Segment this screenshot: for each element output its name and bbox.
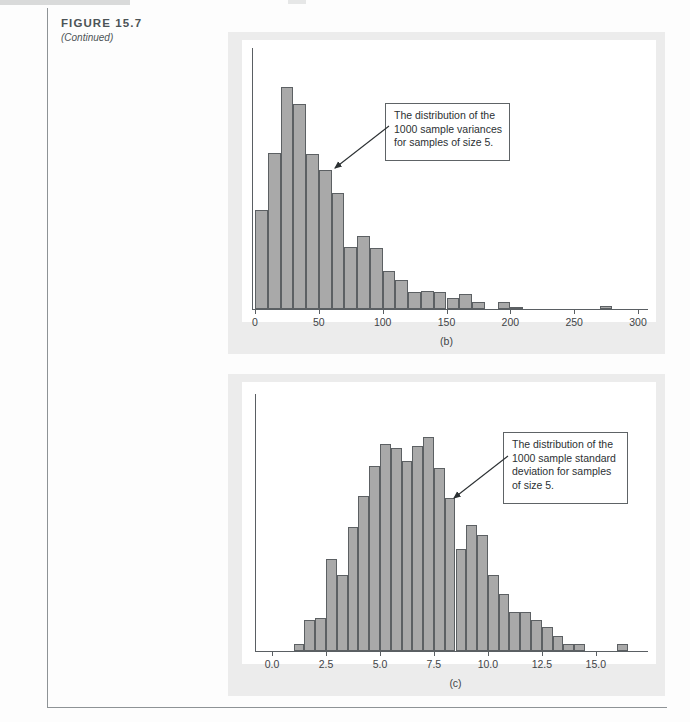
callout-line: The distribution of the bbox=[394, 109, 502, 123]
histogram-bar bbox=[395, 280, 408, 309]
histogram-bar bbox=[600, 306, 613, 309]
histogram-bar bbox=[255, 210, 268, 309]
x-axis-tick-label: 5.0 bbox=[373, 658, 388, 670]
histogram-bar bbox=[304, 620, 315, 651]
callout-line: The distribution of the bbox=[512, 438, 620, 452]
callout-standard-deviations: The distribution of the1000 sample stand… bbox=[503, 432, 628, 504]
x-axis-tick-label: 250 bbox=[565, 316, 583, 328]
histogram-bar bbox=[459, 294, 472, 309]
callout-line: deviation for samples bbox=[512, 465, 620, 479]
histogram-bar bbox=[306, 154, 319, 309]
histogram-bar bbox=[488, 575, 499, 651]
callout-arrow-variances bbox=[327, 120, 397, 180]
histogram-bar bbox=[542, 627, 553, 651]
histogram-bar bbox=[423, 437, 434, 651]
callout-line: 1000 sample variances bbox=[394, 123, 502, 137]
x-axis-tick bbox=[488, 652, 489, 656]
figure-subtitle: (Continued) bbox=[61, 31, 211, 45]
x-axis-tick-label: 0 bbox=[252, 316, 258, 328]
callout-line: 1000 sample standard bbox=[512, 452, 620, 466]
histogram-bar bbox=[510, 307, 523, 309]
y-axis-line bbox=[252, 48, 253, 309]
page-left-rule bbox=[47, 8, 48, 708]
callout-line: for samples of size 5. bbox=[394, 136, 502, 150]
histogram-standard-deviations: 0.02.55.07.510.012.515.0 bbox=[228, 374, 665, 696]
histogram-bar bbox=[315, 618, 326, 651]
x-axis-tick-label: 50 bbox=[313, 316, 325, 328]
scan-artifact-top-center bbox=[288, 0, 306, 4]
x-axis-tick bbox=[319, 310, 320, 314]
histogram-bar bbox=[358, 496, 369, 651]
x-axis-tick-label: 200 bbox=[502, 316, 520, 328]
x-axis-tick bbox=[574, 310, 575, 314]
x-axis-tick-label: 0.0 bbox=[265, 658, 280, 670]
histogram-bar bbox=[337, 575, 348, 651]
histogram-bar bbox=[281, 87, 294, 309]
histogram-bar bbox=[563, 644, 574, 651]
x-axis-tick-label: 300 bbox=[629, 316, 647, 328]
histogram-bar bbox=[421, 291, 434, 310]
histogram-bar bbox=[472, 302, 485, 309]
histogram-bar bbox=[332, 193, 345, 309]
histogram-bar bbox=[499, 594, 510, 651]
histogram-bar bbox=[370, 248, 383, 309]
x-axis-tick bbox=[638, 310, 639, 314]
histogram-bar bbox=[369, 466, 380, 651]
panel-label-b: (b) bbox=[440, 335, 453, 347]
histogram-bar bbox=[520, 612, 531, 651]
scan-artifact-top-left bbox=[0, 0, 130, 5]
x-axis-tick bbox=[542, 652, 543, 656]
histogram-bar bbox=[617, 644, 628, 651]
histogram-bar bbox=[477, 535, 488, 651]
histogram-bar bbox=[447, 298, 460, 309]
x-axis-tick bbox=[510, 310, 511, 314]
x-axis-tick bbox=[596, 652, 597, 656]
x-axis-tick bbox=[447, 310, 448, 314]
figure-caption: FIGURE 15.7 (Continued) bbox=[61, 16, 211, 45]
histogram-variances: 050100150200250300 bbox=[228, 32, 665, 354]
histogram-bar bbox=[553, 636, 564, 651]
histogram-bar bbox=[294, 644, 305, 651]
histogram-bar bbox=[498, 302, 511, 309]
figure-title: FIGURE 15.7 bbox=[61, 16, 211, 30]
chart-panel-c: 0.02.55.07.510.012.515.0 (c) bbox=[228, 374, 665, 696]
histogram-bar bbox=[293, 104, 306, 309]
x-axis-tick-label: 2.5 bbox=[319, 658, 334, 670]
histogram-bar bbox=[509, 612, 520, 651]
x-axis-tick-label: 100 bbox=[374, 316, 392, 328]
histogram-bar bbox=[319, 170, 332, 309]
histogram-bar bbox=[326, 559, 337, 651]
x-axis-tick bbox=[383, 310, 384, 314]
x-axis-tick bbox=[272, 652, 273, 656]
histogram-bar bbox=[456, 549, 467, 651]
histogram-bar bbox=[445, 498, 456, 651]
chart-panel-b: 050100150200250300 (b) bbox=[228, 32, 665, 354]
x-axis-tick bbox=[380, 652, 381, 656]
histogram-bar bbox=[357, 236, 370, 309]
x-axis-tick-label: 12.5 bbox=[532, 658, 552, 670]
callout-line: of size 5. bbox=[512, 479, 620, 493]
histogram-bar bbox=[383, 271, 396, 309]
histogram-bar bbox=[344, 247, 357, 309]
callout-variances: The distribution of the1000 sample varia… bbox=[385, 103, 510, 161]
y-axis-line bbox=[255, 394, 256, 651]
histogram-bar bbox=[574, 644, 585, 651]
x-axis-tick-label: 10.0 bbox=[478, 658, 498, 670]
callout-arrow-standard-deviations bbox=[446, 450, 516, 510]
histogram-bar bbox=[412, 446, 423, 651]
histogram-bar bbox=[391, 448, 402, 651]
histogram-bar bbox=[531, 620, 542, 651]
x-axis-tick bbox=[255, 310, 256, 314]
histogram-bar bbox=[380, 444, 391, 651]
x-axis-tick-label: 150 bbox=[438, 316, 456, 328]
histogram-bar bbox=[348, 527, 359, 651]
x-axis-tick-label: 15.0 bbox=[586, 658, 606, 670]
histogram-bar bbox=[466, 525, 477, 651]
x-axis-line bbox=[255, 651, 648, 652]
histogram-bar bbox=[408, 292, 421, 309]
page-bottom-rule bbox=[47, 707, 667, 708]
histogram-bar bbox=[434, 292, 447, 309]
x-axis-line bbox=[252, 309, 648, 310]
x-axis-tick bbox=[434, 652, 435, 656]
histogram-bar bbox=[434, 468, 445, 651]
